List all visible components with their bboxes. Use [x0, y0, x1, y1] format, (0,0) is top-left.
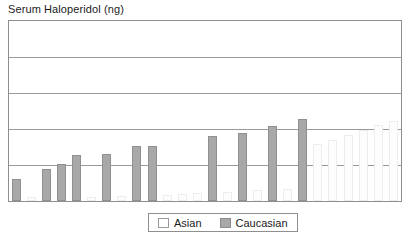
chart-page: Serum Haloperidol (ng) AsianCaucasian: [0, 0, 412, 238]
bar-7-caucasian: [102, 154, 111, 201]
bar-4-caucasian: [57, 164, 66, 201]
bar-9-caucasian: [132, 146, 141, 201]
legend-entry-asian[interactable]: Asian: [158, 217, 202, 229]
bar-13-asian: [193, 193, 202, 201]
bar-12-asian: [178, 194, 187, 201]
bar-26-asian: [389, 121, 398, 201]
legend-label-asian: Asian: [174, 217, 202, 229]
bars-container: [9, 21, 401, 201]
bar-20-caucasian: [298, 119, 307, 201]
legend-swatch-asian-icon: [158, 218, 169, 228]
chart-legend: AsianCaucasian: [148, 213, 298, 232]
bar-10-caucasian: [148, 146, 157, 201]
bar-25-asian: [374, 125, 383, 201]
bar-6-asian: [87, 197, 96, 201]
bar-2-asian: [27, 197, 36, 201]
bar-19-asian: [283, 189, 292, 201]
bar-8-asian: [117, 196, 126, 201]
page-title: Serum Haloperidol (ng): [8, 3, 124, 15]
bar-21-asian: [313, 144, 322, 201]
legend-label-caucasian: Caucasian: [236, 217, 288, 229]
bar-18-caucasian: [268, 126, 277, 201]
bar-5-caucasian: [72, 155, 81, 201]
plot-area: [8, 20, 402, 202]
bar-15-asian: [223, 192, 232, 201]
legend-swatch-caucasian-icon: [220, 218, 231, 228]
bar-23-asian: [344, 135, 353, 201]
legend-entry-caucasian[interactable]: Caucasian: [220, 217, 288, 229]
bar-17-asian: [253, 190, 262, 201]
bar-14-caucasian: [208, 136, 217, 201]
bar-3-caucasian: [42, 169, 51, 201]
bar-1-caucasian: [12, 179, 21, 201]
bar-22-asian: [328, 140, 337, 201]
bar-24-asian: [359, 130, 368, 201]
bar-16-caucasian: [238, 133, 247, 201]
bar-11-asian: [163, 195, 172, 201]
